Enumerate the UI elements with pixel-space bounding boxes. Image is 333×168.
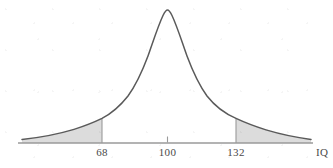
right-tail-shaded-region: [236, 118, 311, 143]
bell-curve-line: [22, 10, 311, 140]
tick-label-68: 68: [82, 146, 122, 158]
iq-distribution-figure: 68 100 132 IQ: [0, 0, 333, 168]
normal-curve-plot: [0, 0, 333, 168]
tick-label-100: 100: [147, 146, 188, 158]
tick-label-132: 132: [216, 146, 256, 158]
left-tail-shaded-region: [22, 118, 102, 143]
x-axis-title: IQ: [316, 146, 328, 158]
